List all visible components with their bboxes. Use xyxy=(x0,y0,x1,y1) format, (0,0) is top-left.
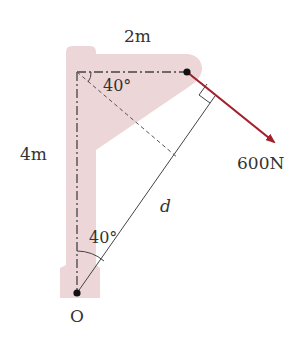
top-angle-label: 40° xyxy=(103,76,131,95)
force-label: 600N xyxy=(237,153,284,173)
distance-label: d xyxy=(160,196,171,216)
left-length-label: 4m xyxy=(20,144,47,164)
origin-label: O xyxy=(70,306,84,326)
origin-point xyxy=(73,289,80,296)
top-length-label: 2m xyxy=(124,26,151,46)
moment-arm-diagram: 2m 4m 40° 40° 600N d O xyxy=(0,0,306,341)
bottom-angle-label: 40° xyxy=(89,228,117,247)
load-point xyxy=(183,68,190,75)
force-arrow xyxy=(187,72,274,142)
